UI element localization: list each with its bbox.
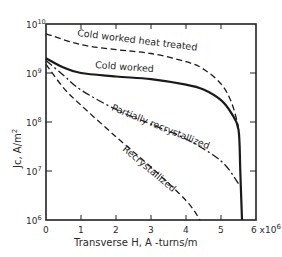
x-tick-label: 3 (148, 225, 154, 235)
curve-recrystallized (46, 64, 200, 220)
curve-cold-worked (46, 58, 242, 220)
y-tick-label: 108 (26, 116, 42, 128)
x-axis-title: Transverse H, A -turns/m (73, 237, 198, 248)
x-tick-label: 5 (218, 225, 224, 235)
y-tick-label: 109 (26, 67, 42, 79)
label-recrystallized: Recrystallized (121, 143, 179, 194)
y-tick-label: 1010 (26, 18, 46, 30)
label-partially-recrystallized: Partially recrystallized (110, 102, 211, 151)
y-tick-label: 106 (26, 214, 42, 226)
y-tick-label: 107 (26, 165, 42, 177)
x-tick-label: 0 (43, 225, 49, 235)
y-axis-title: Jc, A/m2 (11, 129, 23, 169)
jc-vs-field-chart: 0123456 x106 1010109108107106 Cold worke… (0, 0, 282, 257)
x-tick-label: 1 (78, 225, 84, 235)
x-tick-label: 2 (113, 225, 119, 235)
label-cold-worked-heat-treated: Cold worked heat treated (77, 27, 198, 53)
label-cold-worked: Cold worked (95, 59, 154, 74)
x-tick-label: 4 (183, 225, 189, 235)
x-tick-label: 6 x106 (251, 223, 281, 235)
